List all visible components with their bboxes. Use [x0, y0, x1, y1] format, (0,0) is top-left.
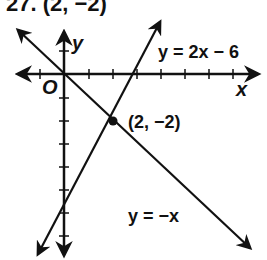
line1-label: y = 2x − 6 — [158, 42, 239, 62]
x-axis-label: x — [235, 78, 248, 100]
point-label: (2, −2) — [128, 112, 181, 132]
line2-label: y = −x — [128, 206, 179, 226]
y-axis-label: y — [71, 32, 84, 54]
coordinate-graph: y x O y = 2x − 6 (2, −2) y = −x — [0, 0, 267, 260]
intersection-point — [109, 117, 118, 126]
origin-label: O — [42, 76, 58, 98]
